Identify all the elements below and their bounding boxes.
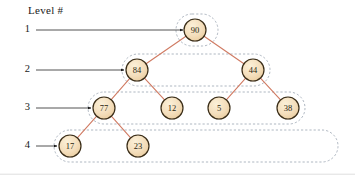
node-circle-90 bbox=[184, 19, 206, 41]
node-circle-44 bbox=[242, 59, 264, 81]
tree-svg-canvas: 90844477125381723 bbox=[0, 0, 355, 175]
tree-edge-44-38 bbox=[260, 78, 280, 100]
tree-node-12[interactable]: 12 bbox=[161, 97, 183, 120]
tree-edge-90-84 bbox=[146, 36, 186, 64]
tree-edges-group bbox=[77, 36, 280, 138]
node-circle-23 bbox=[127, 135, 149, 157]
node-circle-38 bbox=[277, 97, 299, 119]
tree-node-38[interactable]: 38 bbox=[277, 97, 299, 120]
tree-node-23[interactable]: 23 bbox=[127, 135, 149, 158]
node-circle-5 bbox=[208, 97, 230, 119]
tree-node-84[interactable]: 84 bbox=[126, 59, 148, 82]
level-enclosure-4 bbox=[54, 130, 338, 162]
tree-edge-77-17 bbox=[77, 116, 96, 138]
tree-node-44[interactable]: 44 bbox=[242, 59, 264, 82]
tree-edge-90-44 bbox=[204, 36, 244, 64]
tree-edge-44-5 bbox=[226, 78, 245, 100]
node-circle-77 bbox=[93, 97, 115, 119]
tree-edge-77-23 bbox=[111, 116, 130, 138]
tree-edge-84-12 bbox=[144, 78, 164, 100]
tree-diagram-figure: Level # 1 2 3 4 90844477125381723 bbox=[0, 0, 355, 175]
node-circle-12 bbox=[161, 97, 183, 119]
tree-node-5[interactable]: 5 bbox=[208, 97, 230, 120]
node-circle-84 bbox=[126, 59, 148, 81]
tree-node-77[interactable]: 77 bbox=[93, 97, 115, 120]
level-enclosure-3 bbox=[88, 92, 305, 124]
tree-node-90[interactable]: 90 bbox=[184, 19, 206, 42]
level-arrows-group bbox=[36, 30, 183, 146]
tree-edge-84-77 bbox=[111, 78, 130, 99]
node-circle-17 bbox=[59, 135, 81, 157]
tree-node-17[interactable]: 17 bbox=[59, 135, 81, 158]
